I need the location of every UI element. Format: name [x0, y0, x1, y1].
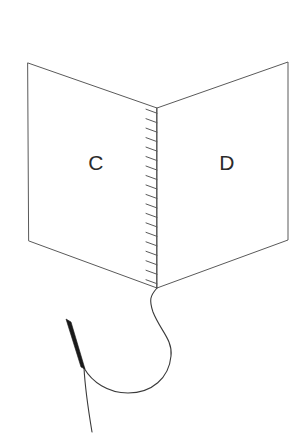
needle-icon — [66, 319, 85, 369]
needle-group — [66, 319, 85, 369]
left-page-group — [28, 63, 157, 288]
right-page-outline — [157, 62, 288, 288]
diagram-canvas: C D — [0, 0, 304, 442]
right-page-group — [157, 62, 288, 288]
right-page-label: D — [219, 151, 235, 174]
thread-loop — [84, 288, 171, 393]
thread-group — [84, 288, 171, 432]
left-page-label: C — [88, 151, 104, 174]
binding-diagram: C D — [0, 0, 304, 442]
left-page-outline — [28, 63, 157, 288]
